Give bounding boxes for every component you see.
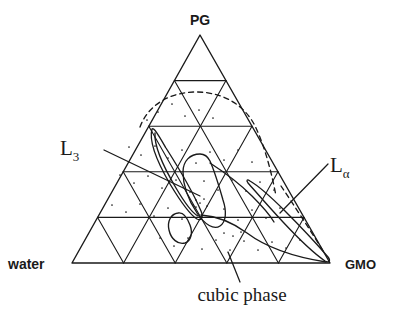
- data-point: [229, 249, 231, 251]
- data-point: [209, 151, 211, 153]
- data-point: [240, 231, 242, 233]
- data-point: [195, 162, 197, 164]
- data-point: [128, 146, 130, 148]
- data-point: [257, 249, 259, 251]
- corner-label-pg: PG: [190, 12, 210, 28]
- data-point: [159, 237, 161, 239]
- data-point: [125, 211, 127, 213]
- data-point: [195, 206, 197, 208]
- data-point: [167, 157, 169, 159]
- data-point: [271, 241, 273, 243]
- data-point: [251, 161, 253, 163]
- data-point: [111, 204, 113, 206]
- data-point: [184, 115, 186, 117]
- data-point: [161, 187, 163, 189]
- corner-label-water: water: [7, 256, 45, 272]
- data-point: [212, 117, 214, 119]
- data-point: [265, 217, 267, 219]
- data-point: [146, 119, 148, 121]
- data-point: [285, 247, 287, 249]
- data-point: [153, 215, 155, 217]
- data-point: [237, 219, 239, 221]
- data-point: [173, 245, 175, 247]
- data-point: [223, 159, 225, 161]
- data-point: [203, 198, 205, 200]
- region-label-lalpha-subscript: α: [343, 166, 350, 181]
- data-point: [206, 205, 208, 207]
- data-point: [181, 218, 183, 220]
- region-label-cubic-phase: cubic phase: [197, 284, 286, 305]
- data-point: [187, 237, 189, 239]
- data-point: [215, 239, 217, 241]
- region-label-l3-base: L: [60, 136, 73, 160]
- region-label-lalpha-base: L: [330, 153, 343, 177]
- data-point: [251, 209, 253, 211]
- data-point: [133, 182, 135, 184]
- corner-label-gmo: GMO: [345, 257, 376, 272]
- data-point: [198, 109, 200, 111]
- data-point: [243, 240, 245, 242]
- data-point: [140, 154, 142, 156]
- region-label-l3-subscript: 3: [73, 149, 80, 164]
- data-point: [181, 149, 183, 151]
- data-point: [223, 232, 225, 234]
- data-point: [139, 203, 141, 205]
- data-point: [167, 207, 169, 209]
- data-point: [119, 174, 121, 176]
- data-point: [171, 103, 173, 105]
- data-point: [232, 235, 234, 237]
- data-point: [157, 111, 159, 113]
- data-point: [259, 181, 261, 183]
- data-point: [199, 202, 201, 204]
- ternary-phase-diagram: PG water GMO L3 Lα cubic phase: [0, 0, 400, 315]
- data-point: [175, 179, 177, 181]
- data-point: [201, 248, 203, 250]
- data-point: [203, 180, 205, 182]
- data-point: [154, 145, 156, 147]
- data-point: [147, 175, 149, 177]
- data-point: [217, 189, 219, 191]
- data-point: [237, 149, 239, 151]
